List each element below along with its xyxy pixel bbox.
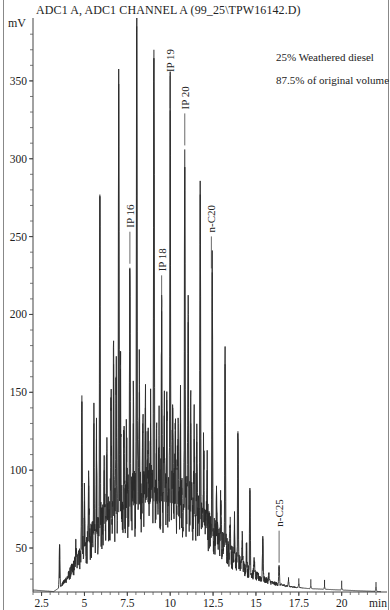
y-tick-label: 200	[10, 308, 28, 320]
peak-label: n-C20	[205, 204, 217, 232]
x-tick-label: 15	[250, 597, 262, 609]
y-tick-label: 350	[10, 75, 28, 87]
chromatogram-plot: 501001502002503003502.557.51012.51517.52…	[0, 0, 390, 610]
peak-label: IP 19	[164, 48, 176, 72]
x-tick-label: 10	[164, 597, 176, 609]
x-tick-label: 17.5	[289, 597, 309, 609]
x-tick-label: 2.5	[34, 597, 49, 609]
chromatogram-trace	[33, 18, 381, 592]
peak-label: n-C25	[273, 499, 285, 527]
peak-label: IP 18	[156, 248, 168, 272]
y-tick-label: 100	[10, 464, 28, 476]
x-tick-label: 20	[336, 597, 348, 609]
x-tick-label: 7.5	[120, 597, 135, 609]
x-tick-label: 12.5	[203, 597, 223, 609]
y-tick-label: 300	[10, 153, 28, 165]
x-tick-label: 5	[82, 597, 88, 609]
y-tick-label: 250	[10, 231, 28, 243]
peak-label: IP 16	[124, 204, 136, 228]
peak-label: IP 20	[179, 86, 191, 110]
y-tick-label: 150	[10, 386, 28, 398]
x-axis-label: min	[369, 597, 387, 609]
y-tick-label: 50	[16, 542, 28, 554]
